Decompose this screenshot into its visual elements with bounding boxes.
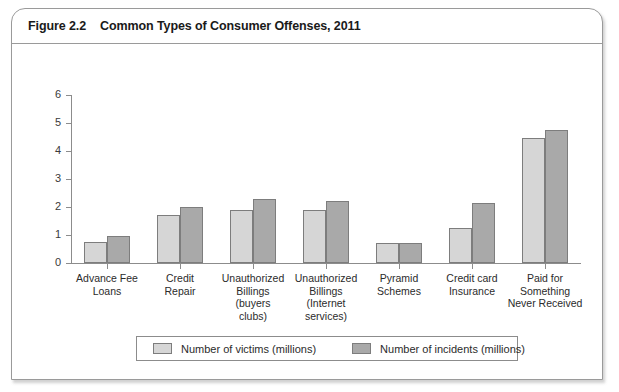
- legend-label-incidents: Number of incidents (millions): [380, 343, 525, 355]
- y-axis-tick: 2: [66, 207, 72, 208]
- y-axis-tick-label: 5: [55, 116, 61, 128]
- bar-group: [157, 95, 203, 263]
- bar-incidents: [545, 130, 568, 263]
- legend-entry-victims: Number of victims (millions): [153, 343, 316, 355]
- x-axis-tick: [107, 264, 108, 269]
- bar-group: [303, 95, 349, 263]
- bar-victims: [449, 228, 472, 263]
- x-axis-tick: [399, 264, 400, 269]
- y-axis-tick: 6: [66, 95, 72, 96]
- y-axis-tick-label: 6: [55, 88, 61, 100]
- legend-swatch-incidents: [352, 343, 371, 354]
- bar-victims: [522, 138, 545, 263]
- y-axis-tick: 5: [66, 123, 72, 124]
- y-axis-tick: 1: [66, 235, 72, 236]
- bar-incidents: [326, 201, 349, 263]
- y-axis-tick-label: 2: [55, 200, 61, 212]
- y-axis-tick: 0: [66, 263, 72, 264]
- bar-victims: [376, 243, 399, 263]
- chart-legend: Number of victims (millions) Number of i…: [136, 336, 518, 361]
- y-axis-tick: 4: [66, 151, 72, 152]
- bar-incidents: [472, 203, 495, 263]
- y-axis-tick-label: 3: [55, 172, 61, 184]
- legend-swatch-victims: [153, 343, 172, 354]
- figure-number: Figure 2.2: [28, 19, 86, 33]
- figure-title-bar: Figure 2.2 Common Types of Consumer Offe…: [12, 9, 602, 44]
- x-axis-category-label: Paid forSomethingNever Received: [490, 272, 600, 310]
- y-axis-tick: 3: [66, 179, 72, 180]
- chart-plot-area: 0123456 Advance FeeLoansCreditRepairUnau…: [12, 44, 602, 380]
- bar-victims: [303, 210, 326, 263]
- bar-group: [230, 95, 276, 263]
- bar-victims: [157, 215, 180, 263]
- x-axis-tick: [180, 264, 181, 269]
- bar-incidents: [253, 199, 276, 263]
- x-axis-tick: [472, 264, 473, 269]
- y-axis-tick-label: 4: [55, 144, 61, 156]
- bar-group: [376, 95, 422, 263]
- bar-incidents: [180, 207, 203, 263]
- y-axis-tick-label: 0: [55, 256, 61, 268]
- bar-victims: [84, 242, 107, 263]
- bar-group: [84, 95, 130, 263]
- bar-group: [522, 95, 568, 263]
- y-axis-tick-label: 1: [55, 228, 61, 240]
- figure-frame: Figure 2.2 Common Types of Consumer Offe…: [11, 8, 603, 380]
- legend-label-victims: Number of victims (millions): [181, 343, 316, 355]
- x-axis-tick: [253, 264, 254, 269]
- figure-caption: Common Types of Consumer Offenses, 2011: [100, 19, 361, 33]
- bar-group: [449, 95, 495, 263]
- x-axis-tick: [326, 264, 327, 269]
- bar-incidents: [107, 236, 130, 263]
- legend-entry-incidents: Number of incidents (millions): [352, 343, 525, 355]
- bar-incidents: [399, 243, 422, 263]
- x-axis-tick: [545, 264, 546, 269]
- bar-victims: [230, 210, 253, 263]
